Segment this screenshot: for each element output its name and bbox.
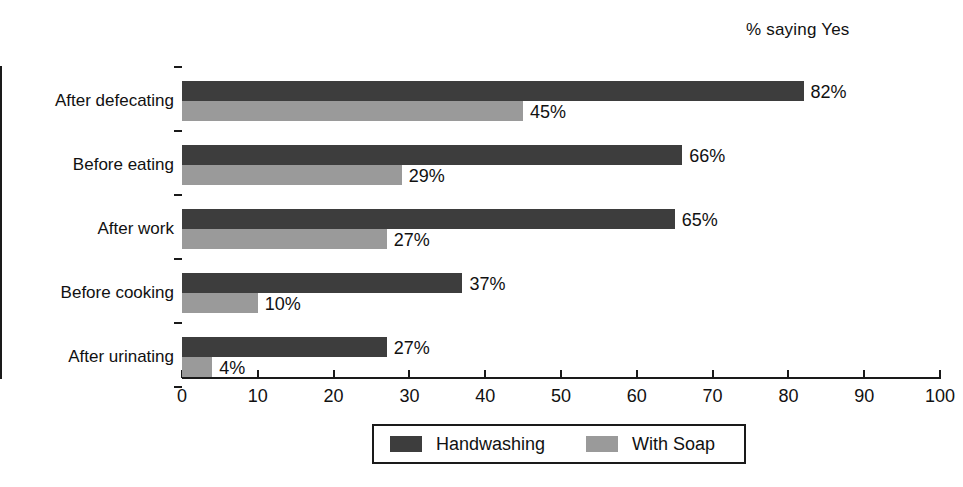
bar-value-label: 66% <box>689 146 725 167</box>
y-axis-tick <box>174 258 182 260</box>
chart-axis-note: % saying Yes <box>746 20 850 40</box>
x-axis-tick-label: 70 <box>683 386 743 407</box>
x-axis-tick-label: 60 <box>607 386 667 407</box>
x-axis-tick <box>787 370 789 378</box>
bar-chart: % saying Yes 0102030405060708090100 Afte… <box>0 0 963 487</box>
x-axis-tick-label: 0 <box>152 386 212 407</box>
bar <box>182 209 675 229</box>
y-axis-category-label: After defecating <box>55 91 174 111</box>
legend-swatch <box>586 436 618 452</box>
x-axis-tick <box>939 370 941 378</box>
bar <box>182 81 804 101</box>
bar <box>182 229 387 249</box>
bar-value-label: 27% <box>394 230 430 251</box>
bar-value-label: 4% <box>219 358 245 379</box>
bar-value-label: 10% <box>265 294 301 315</box>
y-axis-tick <box>174 130 182 132</box>
chart-legend: HandwashingWith Soap <box>372 424 746 464</box>
legend-entry[interactable]: With Soap <box>586 426 715 462</box>
y-axis-category-label: After work <box>97 219 174 239</box>
x-axis-tick <box>257 370 259 378</box>
bar-value-label: 82% <box>811 82 847 103</box>
bar-value-label: 65% <box>682 210 718 231</box>
x-axis-tick <box>408 370 410 378</box>
y-axis-tick <box>174 322 182 324</box>
bar-value-label: 27% <box>394 338 430 359</box>
y-axis-tick <box>174 66 182 68</box>
x-axis-tick <box>636 370 638 378</box>
y-axis-category-label: Before cooking <box>61 283 174 303</box>
legend-label: Handwashing <box>436 434 545 455</box>
bar-value-label: 29% <box>409 166 445 187</box>
bar <box>182 357 212 377</box>
bar <box>182 273 462 293</box>
bar <box>182 165 402 185</box>
x-axis-tick <box>560 370 562 378</box>
x-axis-tick-label: 90 <box>834 386 894 407</box>
legend-entry[interactable]: Handwashing <box>390 426 545 462</box>
bar <box>182 145 682 165</box>
bar <box>182 293 258 313</box>
x-axis-tick-label: 30 <box>379 386 439 407</box>
x-axis-tick-label: 80 <box>758 386 818 407</box>
x-axis-tick <box>484 370 486 378</box>
x-axis-tick <box>333 370 335 378</box>
x-axis-tick <box>712 370 714 378</box>
x-axis-tick-label: 100 <box>910 386 963 407</box>
x-axis-tick-label: 50 <box>531 386 591 407</box>
y-axis-line <box>0 66 2 379</box>
bar <box>182 337 387 357</box>
legend-label: With Soap <box>632 434 715 455</box>
y-axis-tick <box>174 194 182 196</box>
y-axis-category-label: Before eating <box>73 155 174 175</box>
bar <box>182 101 523 121</box>
legend-swatch <box>390 436 422 452</box>
bar-value-label: 45% <box>530 102 566 123</box>
x-axis-tick-label: 10 <box>228 386 288 407</box>
x-axis-tick <box>863 370 865 378</box>
bar-value-label: 37% <box>469 274 505 295</box>
x-axis-tick-label: 40 <box>455 386 515 407</box>
y-axis-category-label: After urinating <box>68 347 174 367</box>
x-axis-tick-label: 20 <box>304 386 364 407</box>
